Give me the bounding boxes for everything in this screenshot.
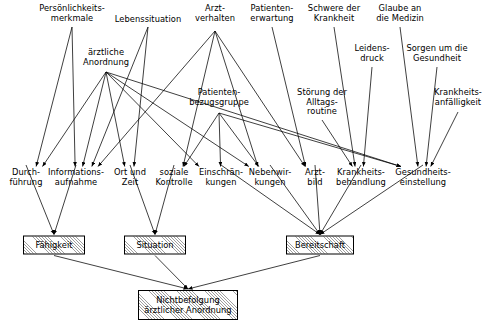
node-label: Nichtbefolgung ärztlicher Anordnung [144,295,231,316]
node-label: Situation [136,240,173,251]
edge-bereitschaft-to-nichtbefolgung [188,256,320,290]
diagram-node-soziale_kontrolle: soziale Kontrolle [155,168,192,187]
edge-krankheitsanfaelligkeit-to-gesundheitseinstellung [431,112,458,167]
edge-sorgen_um_die_gesundheit-to-gesundheitseinstellung [426,67,437,167]
edge-patientenbezugsgruppe-to-gesundheitseinstellung [219,113,401,167]
diagram-node-situation: Situation [124,236,186,255]
edge-patientenbezugsgruppe-to-einschraenkungen [219,113,221,167]
edge-faehigkeit-to-nichtbefolgung [54,256,188,290]
edge-aerztliche_anordnung-to-einschraenkungen [106,72,199,167]
edge-persoenlichkeitsmerkmale-to-durchfuehrung [36,27,72,167]
diagram-node-gesundheitseinstellung: Gesundheits- einstellung [395,168,450,187]
edge-patientenbezugsgruppe-to-nebenwirkungen [219,113,259,167]
edge-persoenlichkeitsmerkmale-to-informationsaufnahme [72,27,75,167]
diagram-node-bereitschaft: Bereitschaft [286,236,354,255]
diagram-node-nichtbefolgung: Nichtbefolgung ärztlicher Anordnung [138,290,238,320]
edge-lebenssituation-to-ort_und_zeit [134,27,148,167]
node-label: Bereitschaft [295,240,345,251]
node-label: Fähigkeit [35,240,72,251]
diagram-node-persoenlichkeitsmerkmale: Persönlichkeits- merkmale [39,4,105,23]
diagram-node-arztbild: Arzt- bild [305,168,325,187]
diagram-node-sorgen_um_die_gesundheit: Sorgen um die Gesundheit [406,44,467,63]
diagram-node-schwere_der_krankheit: Schwere der Krankheit [308,4,360,23]
diagram-node-krankheitsanfaelligkeit: Krankheits- anfälligkeit [434,88,482,107]
diagram-node-stoerung_alltagsroutine: Störung der Alltags- routine [297,88,347,117]
edge-aerztliche_anordnung-to-ort_und_zeit [106,72,125,167]
diagram-node-patientenbezugsgruppe: Patienten- bezugsgruppe [189,88,249,107]
diagram-node-lebenssituation: Lebenssituation [115,15,181,25]
diagram-node-aerztliche_anordnung: ärztliche Anordnung [83,48,129,67]
edge-aerztliche_anordnung-to-informationsaufnahme [83,72,106,167]
diagram-node-ort_und_zeit: Ort und Zeit [114,168,146,187]
diagram-node-krankheitsbehandlung: Krankheits- behandlung [336,168,386,187]
edge-aerztliche_anordnung-to-durchfuehrung [42,72,106,167]
diagram-canvas: Persönlichkeits- merkmaleLebenssituation… [0,0,496,326]
diagram-node-glaube_an_die_medizin: Glaube an die Medizin [376,4,424,23]
edge-leidensdruck-to-krankheitsbehandlung [363,67,372,167]
diagram-node-informationsaufnahme: Informations- aufnahme [48,168,104,187]
diagram-node-patientenerwartung: Patienten- erwartung [250,4,293,23]
diagram-node-arztverhalten: Arzt- verhalten [195,4,235,23]
edge-stoerung_alltagsroutine-to-krankheitsbehandlung [322,120,352,167]
diagram-node-einschraenkungen: Einschrän- kungen [199,168,243,187]
diagram-node-nebenwirkungen: Nebenwir- kungen [249,168,291,187]
edge-situation-to-nichtbefolgung [155,256,188,290]
diagram-node-leidensdruck: Leidens- druck [354,44,389,63]
diagram-node-durchfuehrung: Durch- führung [10,168,43,187]
diagram-node-faehigkeit: Fähigkeit [23,236,85,255]
